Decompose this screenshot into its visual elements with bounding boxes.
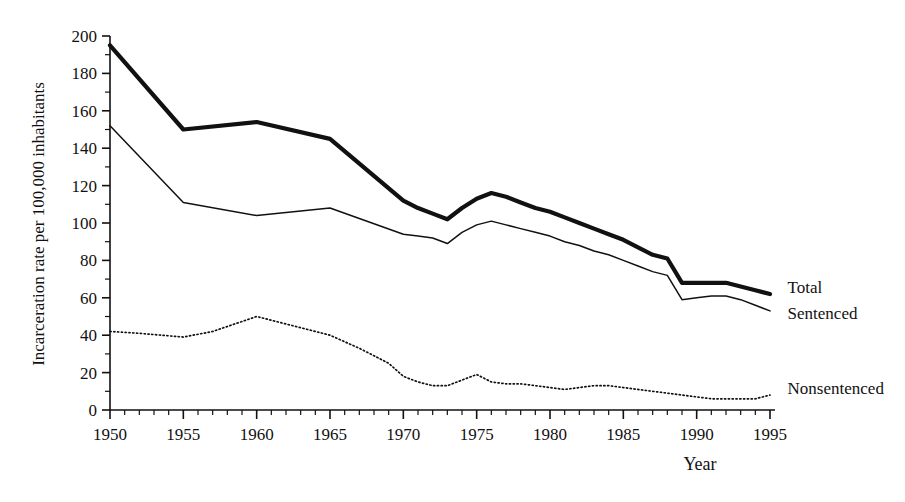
y-axis-tick-label: 0 [89, 401, 98, 420]
x-axis-tick-label: 1950 [93, 425, 127, 444]
y-axis-tick-label: 100 [72, 214, 98, 233]
series-labels: TotalSentencedNonsentenced [788, 278, 885, 398]
x-axis-ticks: 1950195519601965197019751980198519901995 [93, 410, 787, 444]
series-line-total [110, 45, 770, 294]
x-axis-tick-label: 1985 [606, 425, 640, 444]
x-axis-tick-label: 1970 [386, 425, 420, 444]
series-label-total: Total [788, 278, 823, 297]
series-line-nonsentenced [110, 317, 770, 399]
x-axis-title-text: Year [683, 454, 716, 474]
x-axis-tick-label: 1980 [533, 425, 567, 444]
x-axis-tick-label: 1965 [313, 425, 347, 444]
y-axis-tick-label: 20 [80, 364, 97, 383]
series-paths [110, 45, 770, 398]
y-axis-tick-label: 180 [72, 64, 98, 83]
y-axis-tick-label: 80 [80, 251, 97, 270]
x-axis-tick-label: 1990 [680, 425, 714, 444]
y-axis-ticks: 020406080100120140160180200 [72, 27, 111, 420]
y-axis-tick-label: 200 [72, 27, 98, 46]
x-axis-tick-label: 1995 [753, 425, 787, 444]
y-axis-tick-label: 60 [80, 289, 97, 308]
y-axis-tick-label: 160 [72, 102, 98, 121]
y-axis-title-text: Incarceration rate per 100,000 inhabitan… [29, 82, 48, 366]
x-axis-tick-label: 1975 [460, 425, 494, 444]
y-axis-tick-label: 140 [72, 139, 98, 158]
x-axis-tick-label: 1960 [240, 425, 274, 444]
series-label-sentenced: Sentenced [788, 304, 858, 323]
line-chart: Incarceration rate per 100,000 inhabitan… [0, 0, 905, 502]
y-axis-title: Incarceration rate per 100,000 inhabitan… [29, 82, 48, 366]
x-axis-tick-label: 1955 [166, 425, 200, 444]
chart-figure: Incarceration rate per 100,000 inhabitan… [0, 0, 905, 502]
y-axis-tick-label: 120 [72, 177, 98, 196]
series-label-nonsentenced: Nonsentenced [788, 379, 885, 398]
y-axis-tick-label: 40 [80, 326, 97, 345]
